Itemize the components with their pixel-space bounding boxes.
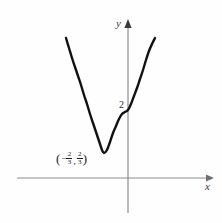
vertex-y-denominator: 3 bbox=[77, 159, 83, 166]
x-axis-label: x bbox=[205, 181, 210, 192]
vertex-close-paren: ) bbox=[83, 152, 87, 165]
y-axis-label: y bbox=[116, 18, 121, 29]
vertex-y-numerator: 2 bbox=[77, 151, 83, 158]
y-intercept-label: 2 bbox=[119, 100, 124, 110]
vertex-x-numerator: 2 bbox=[67, 151, 73, 158]
vertex-x-denominator: 3 bbox=[67, 159, 73, 166]
vertex-open-paren: ( bbox=[56, 152, 60, 165]
vertex-comma: , bbox=[73, 157, 75, 167]
vertex-coordinate-label: ( − 2 3 , 2 3 ) bbox=[56, 151, 87, 167]
plot-canvas bbox=[0, 0, 222, 223]
parabola-curve bbox=[66, 38, 155, 153]
parabola-figure: y x 2 ( − 2 3 , 2 3 ) bbox=[0, 0, 222, 223]
y-axis-arrowhead bbox=[124, 19, 131, 28]
vertex-x-fraction: 2 3 bbox=[66, 151, 72, 167]
